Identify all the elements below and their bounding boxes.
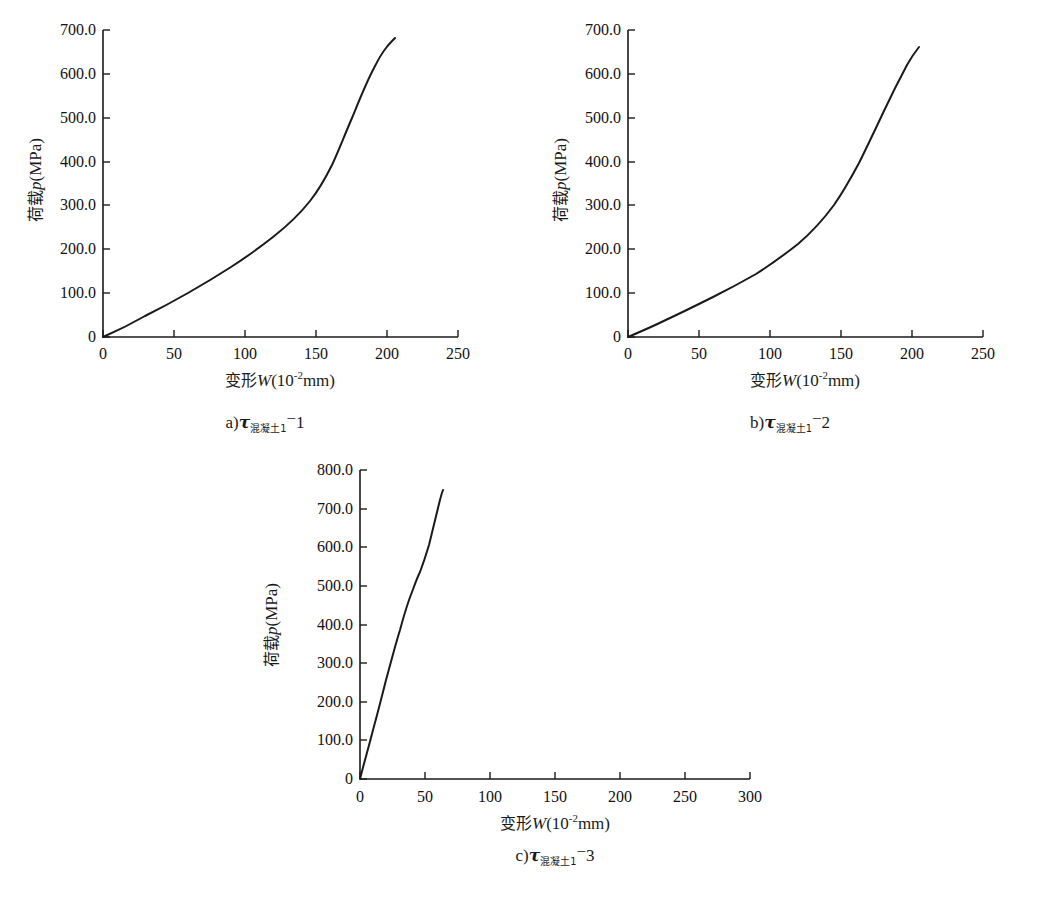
x-tick-label-50-a: 50	[166, 346, 182, 362]
x-tick-label-150-c: 150	[543, 789, 567, 805]
x-ticks-a	[103, 330, 458, 337]
x-tick-label-0-c: 0	[356, 789, 364, 805]
y-tick-label-0-b: 0	[553, 329, 621, 345]
panel-caption-minus-a: −	[286, 409, 296, 428]
x-tick-label-250-b: 250	[971, 346, 995, 362]
y-tick-label-600-c: 600.0	[285, 539, 353, 555]
data-curve-a	[103, 38, 395, 337]
y-tick-label-0-c: 0	[285, 771, 353, 787]
y-axis-title-var-a: p	[26, 181, 45, 190]
x-axis-title-var-b: W	[782, 371, 796, 390]
y-axis-title-cjk-b: 荷载	[551, 190, 570, 222]
x-ticks-b	[628, 330, 983, 337]
y-axis-title-b: 荷载p(MPa)	[552, 138, 571, 222]
y-tick-label-200-c: 200.0	[285, 694, 353, 710]
y-ticks-c	[360, 470, 367, 779]
data-curve-b	[628, 47, 919, 337]
x-tick-label-250-c: 250	[673, 789, 697, 805]
x-tick-label-200-a: 200	[375, 346, 399, 362]
y-tick-label-700-a: 700.0	[28, 22, 96, 38]
y-tick-label-500-c: 500.0	[285, 578, 353, 594]
x-axis-unit-exp-c: -2	[569, 812, 578, 824]
y-tick-label-100-c: 100.0	[285, 732, 353, 748]
y-axis-unit-b: (MPa)	[551, 138, 570, 181]
y-axis-unit-c: (MPa)	[262, 583, 281, 626]
y-tick-label-500-b: 500.0	[553, 110, 621, 126]
panel-caption-tau-a: τ	[239, 412, 250, 432]
x-tick-label-100-b: 100	[758, 346, 782, 362]
x-tick-label-100-c: 100	[478, 789, 502, 805]
panel-caption-prefix-c: c)	[515, 846, 528, 865]
x-axis-unit-exp-a: -2	[294, 369, 303, 381]
x-axis-title-var-c: W	[532, 814, 546, 833]
x-axis-unit-open-c: (10	[546, 814, 569, 833]
x-axis-unit-close-c: mm)	[578, 814, 610, 833]
y-axis-title-cjk-c: 荷载	[262, 635, 281, 667]
y-tick-label-700-c: 700.0	[285, 501, 353, 517]
x-tick-label-200-c: 200	[608, 789, 632, 805]
panel-caption-tau-c: τ	[529, 845, 540, 865]
x-tick-label-0-a: 0	[99, 346, 107, 362]
chart-panel-a: 700.0 600.0 500.0 400.0 300.0 200.0 100.…	[0, 0, 530, 450]
y-axis-title-c: 荷载p(MPa)	[263, 583, 282, 667]
axes-b	[628, 30, 983, 337]
panel-caption-suffix-c: 3	[586, 846, 595, 865]
y-tick-label-0-a: 0	[28, 329, 96, 345]
panel-caption-suffix-a: 1	[296, 413, 305, 432]
x-axis-title-cjk-a: 变形	[225, 371, 257, 390]
axes-c	[360, 470, 750, 779]
y-axis-unit-a: (MPa)	[26, 138, 45, 181]
x-tick-label-150-b: 150	[829, 346, 853, 362]
y-axis-title-var-b: p	[551, 181, 570, 190]
chart-panel-b: 700.0 600.0 500.0 400.0 300.0 200.0 100.…	[530, 0, 1060, 450]
y-tick-label-100-a: 100.0	[28, 285, 96, 301]
x-axis-title-c: 变形W(10-2mm)	[500, 815, 610, 834]
y-axis-title-a: 荷载p(MPa)	[27, 138, 46, 222]
panel-caption-tau-b: τ	[764, 412, 775, 432]
y-tick-label-800-c: 800.0	[285, 462, 353, 478]
y-tick-label-700-b: 700.0	[553, 22, 621, 38]
y-tick-label-300-c: 300.0	[285, 655, 353, 671]
chart-panel-c: 800.0 700.0 600.0 500.0 400.0 300.0 200.…	[250, 440, 810, 900]
x-axis-unit-close-b: mm)	[828, 371, 860, 390]
y-tick-label-200-b: 200.0	[553, 241, 621, 257]
data-curve-c	[360, 490, 443, 779]
x-tick-label-50-b: 50	[691, 346, 707, 362]
x-tick-label-300-c: 300	[738, 789, 762, 805]
x-axis-title-cjk-c: 变形	[500, 814, 532, 833]
x-ticks-c	[360, 772, 750, 779]
y-tick-label-200-a: 200.0	[28, 241, 96, 257]
y-tick-label-500-a: 500.0	[28, 110, 96, 126]
y-ticks-a	[103, 30, 110, 337]
panel-caption-sub-c: 混凝土1	[540, 856, 576, 867]
y-axis-title-var-c: p	[262, 626, 281, 635]
x-tick-label-50-c: 50	[417, 789, 433, 805]
y-tick-label-100-b: 100.0	[553, 285, 621, 301]
x-axis-unit-open-a: (10	[271, 371, 294, 390]
panel-caption-sub-b: 混凝土1	[776, 423, 812, 434]
x-axis-title-a: 变形W(10-2mm)	[225, 372, 335, 391]
x-tick-label-150-a: 150	[304, 346, 328, 362]
x-tick-label-250-a: 250	[446, 346, 470, 362]
panel-caption-suffix-b: 2	[821, 413, 830, 432]
x-axis-unit-close-a: mm)	[303, 371, 335, 390]
panel-caption-prefix-b: b)	[750, 413, 764, 432]
x-axis-unit-open-b: (10	[796, 371, 819, 390]
panel-caption-a: a)τ混凝土1−1	[225, 410, 304, 432]
panel-caption-prefix-a: a)	[225, 413, 238, 432]
panel-caption-c: c)τ混凝土1−3	[515, 843, 594, 865]
axes-a	[103, 30, 458, 337]
y-ticks-b	[628, 30, 635, 337]
figure-page: 700.0 600.0 500.0 400.0 300.0 200.0 100.…	[0, 0, 1060, 906]
x-axis-unit-exp-b: -2	[819, 369, 828, 381]
y-tick-label-400-c: 400.0	[285, 617, 353, 633]
x-tick-label-100-a: 100	[233, 346, 257, 362]
x-tick-label-0-b: 0	[624, 346, 632, 362]
x-tick-label-200-b: 200	[900, 346, 924, 362]
y-tick-label-600-a: 600.0	[28, 66, 96, 82]
y-axis-title-cjk-a: 荷载	[26, 190, 45, 222]
x-axis-title-cjk-b: 变形	[750, 371, 782, 390]
x-axis-title-b: 变形W(10-2mm)	[750, 372, 860, 391]
panel-caption-b: b)τ混凝土1−2	[750, 410, 830, 432]
panel-caption-sub-a: 混凝土1	[250, 423, 286, 434]
